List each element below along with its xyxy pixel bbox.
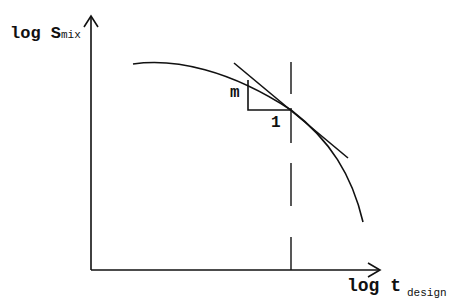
x-axis-label-sub: design bbox=[407, 287, 447, 299]
y-axis-label-main: log S bbox=[10, 24, 61, 43]
slope-rise-label: m bbox=[230, 84, 240, 102]
y-axis-label-sub: mix bbox=[61, 29, 81, 41]
y-axis-label: log Smix bbox=[10, 24, 81, 43]
x-axis-label-main: log t bbox=[347, 276, 401, 296]
diagram-canvas bbox=[0, 0, 457, 307]
x-axis-label: log tdesign bbox=[347, 276, 447, 296]
slope-run-label: 1 bbox=[271, 114, 281, 132]
